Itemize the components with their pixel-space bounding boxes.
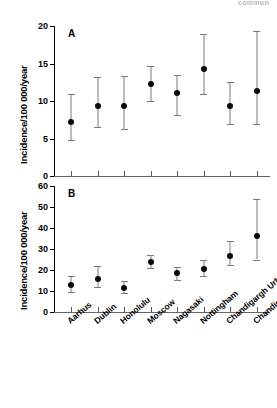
y-axis-tick-label: 50 [38, 203, 48, 212]
error-bar-cap-upper [174, 75, 181, 76]
error-bar-cap-upper [68, 276, 75, 277]
x-axis-tick [124, 171, 125, 176]
error-bar-cap-upper [147, 66, 154, 67]
panel-a-plot-area: 05101520A [54, 26, 266, 176]
y-axis-tick [50, 101, 54, 102]
error-bar-cap-upper [227, 82, 234, 83]
x-axis-tick [71, 171, 72, 176]
error-bar-line [256, 31, 257, 123]
error-bar-cap-upper [68, 94, 75, 95]
figure-root: commun Incidence/100 000/year 05101520A … [0, 0, 277, 408]
panel-a: Incidence/100 000/year 05101520A [0, 14, 277, 174]
data-point-marker [174, 90, 180, 96]
error-bar-cap-upper [94, 266, 101, 267]
error-bar-cap-upper [227, 241, 234, 242]
error-bar-line [71, 94, 72, 141]
error-bar-cap-lower [68, 140, 75, 141]
data-point-marker [95, 276, 101, 282]
error-bar-cap-lower [253, 260, 260, 261]
error-bar-cap-lower [253, 124, 260, 125]
x-axis-tick [204, 171, 205, 176]
error-bar-cap-lower [147, 268, 154, 269]
y-axis-line [54, 186, 55, 312]
error-bar-cap-lower [94, 287, 101, 288]
error-bar-cap-lower [227, 124, 234, 125]
page-header-text: commun [238, 0, 269, 5]
error-bar-cap-lower [227, 265, 234, 266]
y-axis-tick [50, 249, 54, 250]
data-point-marker [254, 88, 260, 94]
panel-b-y-axis-label: Incidence/100 000/year [18, 184, 29, 310]
data-point-marker [68, 282, 74, 288]
data-point-marker [227, 103, 233, 109]
x-axis-tick [257, 171, 258, 176]
data-point-marker [201, 66, 207, 72]
data-point-marker [148, 81, 154, 87]
y-axis-tick-label: 40 [38, 224, 48, 233]
error-bar-cap-lower [121, 293, 128, 294]
x-axis-tick [177, 171, 178, 176]
error-bar-cap-upper [121, 281, 128, 282]
error-bar-cap-upper [94, 77, 101, 78]
error-bar-cap-upper [121, 76, 128, 77]
y-axis-tick-label: 30 [38, 245, 48, 254]
data-point-marker [121, 285, 127, 291]
panel-a-y-axis-label: Incidence/100 000/year [18, 28, 29, 164]
y-axis-line [54, 26, 55, 176]
data-point-marker [254, 233, 260, 239]
error-bar-line [256, 199, 257, 260]
error-bar-cap-upper [200, 34, 207, 35]
y-axis-tick-label: 5 [43, 134, 48, 143]
data-point-marker [95, 103, 101, 109]
error-bar-cap-upper [174, 267, 181, 268]
error-bar-cap-lower [147, 101, 154, 102]
error-bar-cap-lower [174, 115, 181, 116]
error-bar-line [203, 34, 204, 94]
panel-letter: A [68, 28, 75, 39]
data-point-marker [227, 253, 233, 259]
y-axis-tick [50, 26, 54, 27]
y-axis-tick [50, 139, 54, 140]
error-bar-cap-upper [253, 199, 260, 200]
x-axis-category-labels: AarhusDublinHonoluluMoscowNagasakiNottin… [0, 312, 277, 394]
error-bar-cap-lower [121, 129, 128, 130]
y-axis-tick [50, 64, 54, 65]
panel-b: Incidence/100 000/year 0102030405060B Aa… [0, 180, 277, 326]
data-point-marker [174, 270, 180, 276]
y-axis-tick-label: 10 [38, 287, 48, 296]
error-bar-cap-lower [200, 94, 207, 95]
x-axis-tick [230, 171, 231, 176]
x-axis-tick [98, 171, 99, 176]
data-point-marker [201, 266, 207, 272]
y-axis-tick [50, 186, 54, 187]
error-bar-line [97, 77, 98, 127]
error-bar-cap-upper [147, 255, 154, 256]
error-bar-cap-upper [200, 260, 207, 261]
error-bar-cap-lower [174, 280, 181, 281]
y-axis-tick-label: 60 [38, 182, 48, 191]
data-point-marker [148, 259, 154, 265]
error-bar-cap-upper [253, 31, 260, 32]
y-axis-tick [50, 270, 54, 271]
y-axis-tick-label: 20 [38, 22, 48, 31]
data-point-marker [68, 119, 74, 125]
y-axis-tick-label: 15 [38, 59, 48, 68]
y-axis-tick [50, 291, 54, 292]
error-bar-cap-lower [68, 292, 75, 293]
y-axis-tick [50, 228, 54, 229]
error-bar-cap-lower [94, 127, 101, 128]
y-axis-tick-label: 20 [38, 266, 48, 275]
data-point-marker [121, 103, 127, 109]
y-axis-tick-label: 10 [38, 97, 48, 106]
error-bar-cap-lower [200, 276, 207, 277]
y-axis-tick [50, 207, 54, 208]
panel-letter: B [68, 188, 75, 199]
y-axis-tick [50, 176, 54, 177]
x-axis-line [54, 176, 270, 177]
x-axis-tick [151, 171, 152, 176]
